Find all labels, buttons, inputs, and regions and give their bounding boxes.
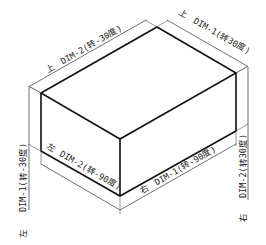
dimension-top-left (29, 20, 157, 93)
label-right-face: 右DIM-1(转-90度) (138, 144, 218, 196)
label-right-vertical-side: 右 (238, 213, 248, 222)
isometric-box-diagram: 上DIM-2(转-30度) 上DIM-1(转30度) 左DIM-2(转-90度)… (0, 0, 266, 245)
label-left-face: 左DIM-2(转-90度) (45, 141, 123, 192)
label-top-right: 上DIM-1(转30度) (177, 7, 252, 56)
box-top-face (41, 27, 236, 139)
box-lower-outline (41, 73, 236, 196)
label-left-vertical: DIM-1(转-30度) (18, 143, 28, 212)
dimension-left-vertical (28, 86, 41, 210)
label-right-vertical: DIM-2(转30度) (238, 134, 248, 198)
label-top-left: 上DIM-2(转-30度) (44, 23, 124, 75)
label-left-vertical-side: 左 (18, 229, 28, 238)
